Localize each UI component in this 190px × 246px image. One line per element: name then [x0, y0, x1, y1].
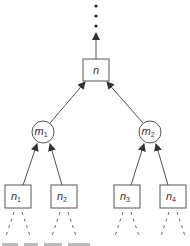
node-n1: n1	[5, 185, 31, 208]
edge-n4-m2	[156, 144, 168, 185]
tree-diagram: n m1 m2 n1 n2 n3 n4	[0, 0, 190, 246]
dashed-continuations	[6, 212, 185, 236]
edge-n1-m1	[23, 144, 37, 185]
node-n4: n4	[160, 185, 186, 208]
ellipsis-icon	[94, 4, 97, 27]
node-n3: n3	[114, 185, 140, 208]
node-m2: m2	[139, 121, 161, 143]
node-m1: m1	[32, 121, 54, 143]
svg-text:n: n	[93, 64, 99, 76]
edge-n2-m1	[50, 144, 62, 185]
node-n2: n2	[51, 185, 77, 208]
edge-n3-m2	[131, 144, 144, 185]
edge-m2-n	[107, 82, 143, 123]
edge-m1-n	[50, 82, 85, 123]
node-n: n	[83, 59, 109, 81]
